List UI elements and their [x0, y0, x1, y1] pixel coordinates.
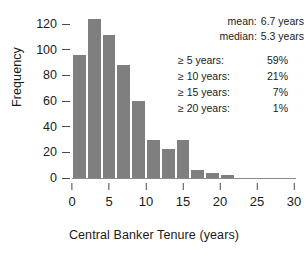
- y-tick-mark: [62, 75, 70, 76]
- summary-stat-row: median:5.3 years: [178, 29, 304, 44]
- x-tick-label: 5: [105, 195, 112, 208]
- threshold-value: 59%: [256, 53, 288, 69]
- summary-stat-value: 6.7 years: [261, 14, 304, 29]
- threshold-row: ≥ 10 years:21%: [178, 69, 304, 85]
- x-tick-mark: [146, 183, 147, 190]
- y-tick-mark: [62, 49, 70, 50]
- x-tick-label: 30: [287, 195, 301, 208]
- histogram-bar: [72, 55, 87, 178]
- x-tick: 5: [105, 183, 112, 208]
- histogram-bar: [102, 35, 117, 179]
- summary-stat-value: 5.3 years: [261, 29, 304, 44]
- histogram-bar: [131, 101, 146, 178]
- y-tick-mark: [62, 101, 70, 102]
- histogram-figure: Frequency 020406080100120 051015202530 C…: [0, 0, 308, 256]
- threshold-key: ≥ 15 years:: [178, 85, 256, 101]
- y-axis-ticks: 020406080100120: [0, 14, 70, 178]
- summary-stat-key: median:: [219, 29, 256, 44]
- y-tick-mark: [62, 126, 70, 127]
- y-tick-label: 20: [43, 146, 57, 159]
- y-tick-label: 120: [36, 18, 57, 31]
- threshold-value: 21%: [256, 69, 288, 85]
- x-tick: 15: [176, 183, 190, 208]
- x-tick-label: 25: [250, 195, 264, 208]
- histogram-bar: [161, 149, 176, 178]
- threshold-row: ≥ 15 years:7%: [178, 85, 304, 101]
- x-tick-mark: [294, 183, 295, 190]
- y-tick-label: 40: [43, 121, 57, 134]
- histogram-bar: [87, 19, 102, 178]
- histogram-bar: [190, 170, 205, 178]
- y-tick-mark: [62, 178, 70, 179]
- x-tick-mark: [220, 183, 221, 190]
- y-tick-mark: [62, 24, 70, 25]
- x-tick-mark: [257, 183, 258, 190]
- threshold-value: 1%: [256, 101, 288, 117]
- y-tick-label: 80: [43, 69, 57, 82]
- x-tick: 30: [287, 183, 301, 208]
- threshold-table: ≥ 5 years:59%≥ 10 years:21%≥ 15 years:7%…: [178, 53, 304, 117]
- x-tick: 0: [68, 183, 75, 208]
- y-tick-label: 60: [43, 95, 57, 108]
- x-tick-mark: [71, 183, 72, 190]
- y-tick-label: 0: [50, 172, 57, 185]
- x-tick: 20: [213, 183, 227, 208]
- y-tick-mark: [62, 152, 70, 153]
- x-tick: 10: [139, 183, 153, 208]
- summary-stats: mean:6.7 yearsmedian:5.3 years: [178, 14, 304, 44]
- summary-stat-row: mean:6.7 years: [178, 14, 304, 29]
- x-tick: 25: [250, 183, 264, 208]
- x-axis-ticks: 051015202530: [72, 183, 296, 223]
- x-tick-label: 0: [68, 195, 75, 208]
- threshold-value: 7%: [256, 85, 288, 101]
- threshold-key: ≥ 20 years:: [178, 101, 256, 117]
- histogram-bar: [146, 140, 161, 178]
- threshold-row: ≥ 5 years:59%: [178, 53, 304, 69]
- x-tick-label: 20: [213, 195, 227, 208]
- summary-stat-key: mean:: [228, 14, 257, 29]
- threshold-key: ≥ 10 years:: [178, 69, 256, 85]
- histogram-bar: [176, 140, 191, 178]
- x-tick-label: 15: [176, 195, 190, 208]
- threshold-row: ≥ 20 years:1%: [178, 101, 304, 117]
- x-tick-label: 10: [139, 195, 153, 208]
- x-tick-mark: [108, 183, 109, 190]
- x-axis-baseline: [72, 178, 296, 179]
- x-tick-mark: [183, 183, 184, 190]
- threshold-key: ≥ 5 years:: [178, 53, 256, 69]
- y-tick-label: 100: [36, 44, 57, 57]
- x-axis-label: Central Banker Tenure (years): [0, 228, 308, 242]
- histogram-bar: [116, 65, 131, 178]
- annotation-block: mean:6.7 yearsmedian:5.3 years ≥ 5 years…: [178, 14, 304, 117]
